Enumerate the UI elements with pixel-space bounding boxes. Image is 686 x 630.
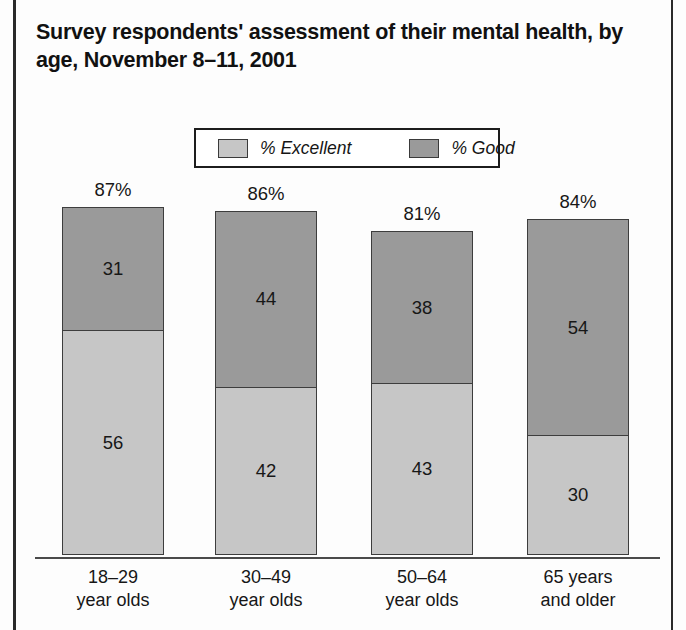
plot-area: 87%315618–29year olds86%444230–49year ol…	[0, 0, 686, 630]
bar-segment-value: 42	[256, 462, 277, 481]
bar-segment-excellent[interactable]: 42	[215, 387, 317, 556]
bar-total-label: 87%	[62, 179, 164, 201]
bar-stack[interactable]: 3843	[371, 231, 473, 557]
x-axis-category-label-line: 65 years	[503, 566, 653, 589]
x-axis-category-label: 30–49year olds	[191, 566, 341, 612]
bar-segment-value: 54	[568, 319, 589, 338]
x-axis-category-label-line: year olds	[38, 589, 188, 612]
x-axis-category-label-line: year olds	[191, 589, 341, 612]
bar-segment-value: 30	[568, 486, 589, 505]
x-axis-category-label-line: 50–64	[347, 566, 497, 589]
figure-container: Survey respondents' assessment of their …	[0, 0, 686, 630]
x-axis-category-label-line: year olds	[347, 589, 497, 612]
x-axis-line	[35, 557, 660, 559]
bar-segment-excellent[interactable]: 56	[62, 330, 164, 555]
x-axis-category-label: 18–29year olds	[38, 566, 188, 612]
x-axis-category-label: 50–64year olds	[347, 566, 497, 612]
bar-total-label: 86%	[215, 183, 317, 205]
x-axis-category-label-line: 30–49	[191, 566, 341, 589]
bar-segment-good[interactable]: 44	[215, 211, 317, 388]
bar-total-label: 81%	[371, 203, 473, 225]
bar-segment-value: 56	[103, 434, 124, 453]
bar-total-label: 84%	[527, 191, 629, 213]
x-axis-category-label-line: and older	[503, 589, 653, 612]
bar-segment-value: 43	[412, 460, 433, 479]
bar-stack[interactable]: 4442	[215, 211, 317, 557]
bar-segment-excellent[interactable]: 43	[371, 383, 473, 556]
bar-segment-value: 44	[256, 290, 277, 309]
bar-segment-good[interactable]: 31	[62, 207, 164, 332]
bar-stack[interactable]: 5430	[527, 219, 629, 557]
bar-segment-value: 31	[103, 260, 124, 279]
bar-stack[interactable]: 3156	[62, 207, 164, 557]
bar-segment-good[interactable]: 38	[371, 231, 473, 384]
bar-segment-excellent[interactable]: 30	[527, 435, 629, 556]
bar-segment-good[interactable]: 54	[527, 219, 629, 436]
x-axis-category-label: 65 yearsand older	[503, 566, 653, 612]
bar-segment-value: 38	[412, 299, 433, 318]
x-axis-category-label-line: 18–29	[38, 566, 188, 589]
